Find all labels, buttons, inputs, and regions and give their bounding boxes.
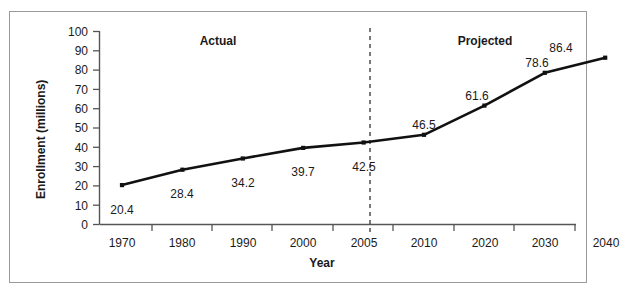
x-tick-label: 2010 <box>394 237 454 249</box>
y-tick-label: 50 <box>48 122 88 134</box>
data-point-marker <box>543 71 547 75</box>
x-tick-marks <box>152 225 575 232</box>
data-label: 42.5 <box>342 161 386 173</box>
x-axis-title: Year <box>262 256 382 270</box>
x-tick-label: 2005 <box>334 237 394 249</box>
y-axis-title: Enrollment (millions) <box>34 80 48 199</box>
actual-region-label: Actual <box>158 34 278 48</box>
data-label: 46.5 <box>402 119 446 131</box>
data-point-marker <box>362 140 366 144</box>
data-point-marker <box>422 133 426 137</box>
data-label: 28.4 <box>160 188 204 200</box>
data-point-marker <box>180 168 184 172</box>
y-tick-marks <box>93 32 100 225</box>
data-point-marker <box>241 156 245 160</box>
data-point-marker <box>482 104 486 108</box>
y-tick-label: 10 <box>48 200 88 212</box>
data-point-marker <box>120 183 124 187</box>
y-tick-label: 70 <box>48 84 88 96</box>
y-tick-label: 100 <box>48 26 88 38</box>
data-label: 78.6 <box>515 57 559 69</box>
x-tick-label: 2000 <box>273 237 333 249</box>
x-tick-label: 2030 <box>515 237 575 249</box>
y-tick-label: 20 <box>48 180 88 192</box>
y-tick-label: 0 <box>48 219 88 231</box>
data-label: 20.4 <box>100 204 144 216</box>
data-label: 34.2 <box>221 177 265 189</box>
y-tick-label: 60 <box>48 103 88 115</box>
data-label: 39.7 <box>281 166 325 178</box>
y-tick-label: 90 <box>48 45 88 57</box>
x-tick-label: 1980 <box>152 237 212 249</box>
x-tick-label: 2020 <box>455 237 515 249</box>
data-label: 86.4 <box>539 42 583 54</box>
y-tick-label: 80 <box>48 64 88 76</box>
y-tick-label: 30 <box>48 161 88 173</box>
projected-region-label: Projected <box>425 34 545 48</box>
data-label: 61.6 <box>455 90 499 102</box>
y-tick-label: 40 <box>48 142 88 154</box>
x-tick-label: 2040 <box>576 237 624 249</box>
x-tick-label: 1990 <box>213 237 273 249</box>
x-tick-label: 1970 <box>92 237 152 249</box>
data-point-marker <box>603 56 607 60</box>
data-point-marker <box>301 146 305 150</box>
